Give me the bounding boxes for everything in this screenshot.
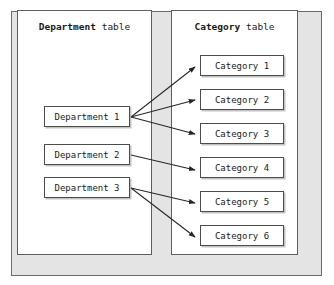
- department-box-3[interactable]: Department 3: [44, 177, 130, 198]
- category-box-3[interactable]: Category 3: [200, 123, 284, 144]
- category-box-2[interactable]: Category 2: [200, 89, 284, 110]
- department-box-1[interactable]: Department 1: [44, 106, 130, 127]
- category-box-2-label: Category 2: [215, 95, 269, 105]
- er-relationship-diagram: Department table Category table Departme…: [0, 0, 334, 285]
- department-table-title-suffix: table: [102, 21, 131, 32]
- category-table-title-suffix: table: [246, 21, 275, 32]
- category-box-4[interactable]: Category 4: [200, 157, 284, 178]
- department-box-3-label: Department 3: [54, 183, 119, 193]
- department-table-title: Department table: [18, 21, 151, 33]
- department-table-title-entity: Department: [39, 21, 96, 32]
- category-table-title: Category table: [172, 21, 297, 33]
- department-box-2-label: Department 2: [54, 150, 119, 160]
- category-box-1-label: Category 1: [215, 61, 269, 71]
- department-box-1-label: Department 1: [54, 112, 119, 122]
- category-box-4-label: Category 4: [215, 163, 269, 173]
- category-box-3-label: Category 3: [215, 129, 269, 139]
- category-box-5-label: Category 5: [215, 197, 269, 207]
- category-box-5[interactable]: Category 5: [200, 191, 284, 212]
- category-box-1[interactable]: Category 1: [200, 55, 284, 76]
- department-box-2[interactable]: Department 2: [44, 144, 130, 165]
- category-box-6-label: Category 6: [215, 231, 269, 241]
- category-box-6[interactable]: Category 6: [200, 225, 284, 246]
- category-table-title-entity: Category: [194, 21, 240, 32]
- department-table-panel: Department table: [17, 10, 152, 255]
